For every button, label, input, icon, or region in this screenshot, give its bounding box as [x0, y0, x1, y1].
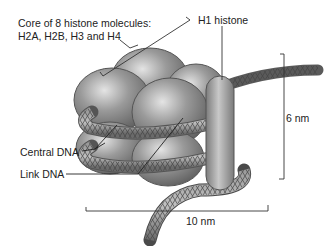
- h1-histone-shape: [206, 76, 234, 190]
- core-label-line1: Core of 8 histone molecules:: [18, 17, 151, 29]
- width-dimension-label: 10 nm: [186, 215, 215, 227]
- core-label-line2: H2A, H2B, H3 and H4: [18, 30, 121, 42]
- height-dimension-label: 6 nm: [286, 112, 309, 124]
- link-dna-label: Link DNA: [20, 168, 64, 180]
- h1-histone-label: H1 histone: [198, 14, 248, 26]
- central-dna-label: Central DNA: [20, 146, 79, 158]
